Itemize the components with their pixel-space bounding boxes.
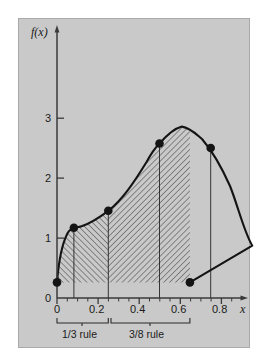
x-axis-label: x xyxy=(240,303,245,315)
data-point-x2 xyxy=(104,207,113,216)
x-tick-label-0: 0 xyxy=(54,304,60,315)
y-tick-label-3: 3 xyxy=(45,113,51,124)
y-tick-label-1: 1 xyxy=(45,233,51,244)
bracket-three-eighths xyxy=(111,318,190,323)
x-tick-label-0_4: 0.4 xyxy=(130,304,145,315)
rule-label-one-third: 1/3 rule xyxy=(62,329,97,340)
x-tick-label-0_8: 0.8 xyxy=(212,304,227,315)
y-axis-label: f(x) xyxy=(31,26,48,38)
y-tick-label-2: 2 xyxy=(45,173,51,184)
data-point-x1 xyxy=(70,223,79,232)
y-tick-label-0: 0 xyxy=(45,293,51,304)
data-point-x4 xyxy=(206,144,215,153)
x-tick-label-0_6: 0.6 xyxy=(171,304,186,315)
rule-label-three-eighths: 3/8 rule xyxy=(129,329,164,340)
figure-canvas: f(x) x 1 2 3 0 0 0.2 0.4 0.6 0.8 1/3 rul… xyxy=(0,0,266,364)
data-point-x5 xyxy=(186,278,195,287)
x-tick-label-0_2: 0.2 xyxy=(89,304,104,315)
data-point-x3 xyxy=(155,139,164,148)
rule-span-brackets xyxy=(57,318,190,326)
data-point-x0 xyxy=(53,278,62,287)
y-axis-major-ticks xyxy=(57,118,64,238)
x-axis-arrow xyxy=(241,296,249,301)
y-axis-arrow xyxy=(55,25,60,33)
bracket-one-third xyxy=(57,318,108,323)
